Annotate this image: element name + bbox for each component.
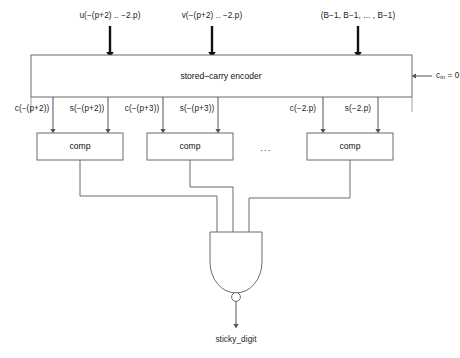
comp-output-wires [80, 160, 350, 232]
carry-in-label: cin = 0 [436, 72, 460, 80]
output-label-s-p3: s(−(p+3)) [180, 105, 215, 113]
encoder-output-wires [53, 97, 378, 131]
output-label-c-2p: c(−2.p) [290, 105, 316, 113]
input-label-u: u(−(p+2) .. −2.p) [79, 12, 140, 20]
carry-in-value: = 0 [445, 71, 459, 80]
sticky-digit-output-label: sticky_digit [215, 336, 256, 344]
input-label-b: (B−1, B−1, ... , B−1) [321, 12, 396, 20]
comp-label-3: comp [339, 141, 360, 151]
comparator-ellipsis: ... [260, 143, 272, 153]
input-label-v: v(−(p+2) .. −2.p) [182, 12, 243, 20]
comp-label-2: comp [179, 141, 200, 151]
nand-gate [210, 232, 262, 293]
encoder-label: stored–carry encoder [180, 71, 261, 81]
inversion-bubble-icon [232, 293, 241, 302]
output-label-s-2p: s(−2.p) [345, 105, 371, 113]
output-label-c-p3: c(−(p+3)) [125, 105, 160, 113]
output-label-s-p2: s(−(p+2)) [70, 105, 105, 113]
comp-label-1: comp [69, 141, 90, 151]
output-label-c-p2: c(−(p+2)) [15, 105, 50, 113]
